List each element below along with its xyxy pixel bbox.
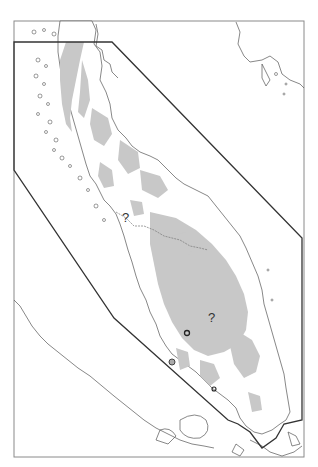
uncertain-label-south: ? [208,310,215,325]
record-marker [169,359,175,365]
map-canvas: ? ? [0,0,318,467]
uncertain-label-north: ? [122,210,129,225]
